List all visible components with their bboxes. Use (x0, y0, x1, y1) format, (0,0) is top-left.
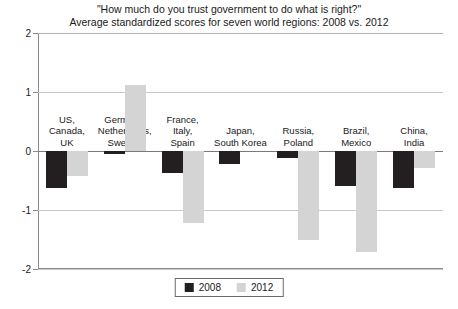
bar-2012 (125, 85, 146, 151)
bar-group: France,Italy,Spain (154, 33, 212, 269)
bar-group-label-line: UK (49, 137, 85, 149)
bar-group-label-line: Canada, (49, 125, 85, 137)
bar-group-label-line: South Korea (214, 137, 267, 149)
legend-label-2008: 2008 (199, 282, 221, 293)
bar-group-label: US,Canada,UK (49, 114, 85, 149)
bar-groups: US,Canada,UKGermany,Netherlands,SwedenFr… (38, 33, 443, 269)
bar-2012 (183, 151, 204, 223)
bar-group-label-line: Spain (167, 137, 199, 149)
bar-group-label-line: Japan, (214, 125, 267, 137)
bar-group-label-line: Poland (283, 137, 315, 149)
bar-group-label-line: Mexico (341, 137, 371, 149)
y-tick-label: -1 (22, 205, 31, 216)
bar-2008 (335, 151, 356, 186)
y-tick-label: 1 (25, 87, 31, 98)
bar-2012 (67, 151, 88, 176)
bar-group-label-line: US, (49, 114, 85, 126)
bar-group-label: Russia,Poland (283, 125, 315, 148)
bar-group-label-line: Russia, (283, 125, 315, 137)
bar-group: US,Canada,UK (38, 33, 96, 269)
chart-legend: 2008 2012 (175, 278, 284, 297)
bar-group-label-line: Brazil, (341, 125, 371, 137)
chart-subtitle: Average standardized scores for seven wo… (0, 16, 458, 29)
bar-group: Germany,Netherlands,Sweden (96, 33, 154, 269)
legend-swatch-icon-2008 (185, 283, 194, 292)
legend-item-2012: 2012 (237, 282, 273, 293)
bar-group-label: Brazil,Mexico (341, 125, 371, 148)
chart-title: "How much do you trust government to do … (0, 3, 458, 16)
bar-group: Japan,South Korea (212, 33, 270, 269)
legend-item-2008: 2008 (185, 282, 221, 293)
legend-swatch-icon-2012 (237, 283, 246, 292)
bar-group-label-line: Italy, (167, 125, 199, 137)
bar-2012 (298, 151, 319, 240)
y-tick-label: 0 (25, 146, 31, 157)
bar-2012 (414, 151, 435, 168)
gridline--2 (38, 269, 443, 270)
chart-container: "How much do you trust government to do … (0, 0, 458, 309)
bar-group-label: China,India (400, 125, 427, 148)
bar-group-label-line: France, (167, 114, 199, 126)
bar-2008 (46, 151, 67, 188)
bar-2008 (219, 151, 240, 164)
bar-group: China,India (385, 33, 443, 269)
bar-group-label-line: China, (400, 125, 427, 137)
bar-group-label: France,Italy,Spain (167, 114, 199, 149)
bar-group-label-line: India (400, 137, 427, 149)
bar-group: Brazil,Mexico (327, 33, 385, 269)
bar-2008 (162, 151, 183, 173)
y-tick-label: -2 (22, 264, 31, 275)
bar-group-label: Japan,South Korea (214, 125, 267, 148)
plot-area: 210-1-2 US,Canada,UKGermany,Netherlands,… (38, 33, 443, 269)
bar-2008 (104, 151, 125, 154)
bar-2008 (393, 151, 414, 188)
y-tick-label: 2 (25, 28, 31, 39)
y-tick-mark (33, 269, 38, 270)
bar-2008 (277, 151, 298, 158)
bar-group: Russia,Poland (269, 33, 327, 269)
legend-label-2012: 2012 (251, 282, 273, 293)
bar-2012 (356, 151, 377, 252)
chart-title-block: "How much do you trust government to do … (0, 3, 458, 29)
